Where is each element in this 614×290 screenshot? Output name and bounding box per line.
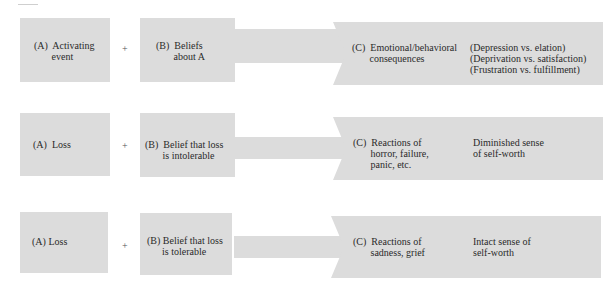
consequences-box: (C) Emotional/behavioral consequences (D… <box>333 22 603 85</box>
activating-event-label: (A) Activating event <box>34 40 95 62</box>
reactions-horror-label: (C) Reactions of horror, failure, panic,… <box>353 137 429 170</box>
consequences-label: (C) Emotional/behavioral consequences <box>352 42 457 64</box>
arrow-stem <box>234 137 346 159</box>
reactions-horror-box: (C) Reactions of horror, failure, panic,… <box>333 117 603 180</box>
plus-sign: + <box>122 140 128 151</box>
plus-sign: + <box>122 43 128 54</box>
loss-label: (A) Loss <box>32 236 67 247</box>
loss-label: (A) Loss <box>33 139 71 150</box>
diminished-self-worth: Diminished sense of self-worth <box>473 137 544 159</box>
beliefs-label: (B) Beliefs about A <box>156 40 205 62</box>
loss-box: (A) Loss <box>20 113 110 176</box>
intact-self-worth: Intact sense of self-worth <box>473 236 531 258</box>
loss-box: (A) Loss <box>20 212 108 273</box>
reactions-sadness-label: (C) Reactions of sadness, grief <box>353 236 425 258</box>
plus-sign: + <box>122 240 128 251</box>
belief-tolerable-box: (B) Belief that loss is tolerable <box>140 213 232 275</box>
belief-tolerable-label: (B) Belief that loss is tolerable <box>147 235 223 257</box>
activating-event-box: (A) Activating event <box>20 18 110 82</box>
reactions-sadness-box: (C) Reactions of sadness, grief Intact s… <box>331 216 601 278</box>
beliefs-box: (B) Beliefs about A <box>140 18 235 82</box>
belief-intolerable-label: (B) Belief that loss is intolerable <box>145 139 223 161</box>
consequences-outcomes: (Depression vs. elation) (Deprivation vs… <box>470 42 586 75</box>
page-fragment <box>18 0 38 5</box>
arrow-stem <box>234 29 346 63</box>
belief-intolerable-box: (B) Belief that loss is intolerable <box>140 113 235 177</box>
arrow-stem <box>234 236 346 258</box>
